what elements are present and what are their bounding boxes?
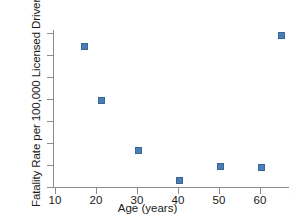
scatter-chart: Fatality Rate per 100,000 Licensed Drive…: [0, 0, 295, 219]
data-point: [258, 164, 265, 171]
y-tick: [47, 55, 53, 56]
data-point: [217, 163, 224, 170]
x-tick-label: 40: [163, 194, 193, 206]
data-point: [278, 32, 285, 39]
data-point: [98, 97, 105, 104]
y-tick: [47, 77, 53, 78]
x-tick-label: 10: [40, 194, 70, 206]
y-tick: [47, 187, 53, 188]
y-axis-line: [53, 30, 54, 188]
x-tick-label: 50: [204, 194, 234, 206]
y-tick: [47, 33, 53, 34]
y-axis-label: Fatality Rate per 100,000 Licensed Drive…: [30, 7, 42, 207]
x-tick-label: 70: [286, 194, 295, 206]
y-tick: [47, 121, 53, 122]
x-tick-label: 30: [122, 194, 152, 206]
x-tick-label: 20: [81, 194, 111, 206]
y-tick: [47, 165, 53, 166]
y-tick: [47, 143, 53, 144]
y-tick: [47, 99, 53, 100]
x-tick-label: 60: [245, 194, 275, 206]
data-point: [135, 147, 142, 154]
data-point: [81, 43, 88, 50]
data-point: [176, 177, 183, 184]
x-axis-line: [53, 187, 289, 188]
